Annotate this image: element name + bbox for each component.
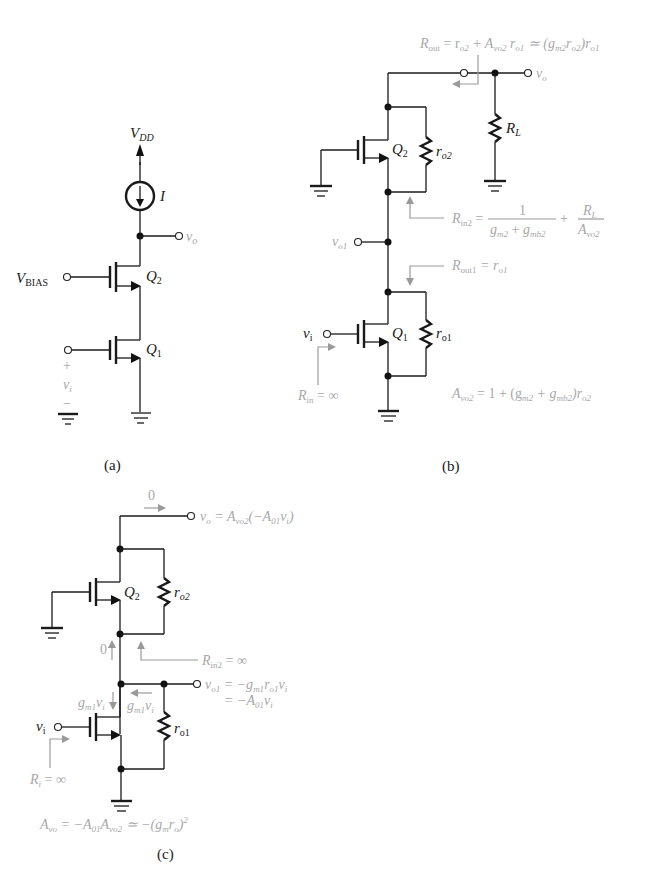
- rl-label: RL: [505, 120, 521, 138]
- vo-label: vo: [536, 66, 547, 83]
- vo-label: vo: [186, 229, 197, 246]
- zero-current-top: 0: [148, 488, 155, 503]
- q2-label: Q2: [124, 584, 140, 602]
- caption-b: (b): [442, 458, 460, 475]
- q2-label: Q2: [146, 268, 162, 286]
- frac2-denominator: Avo2: [577, 222, 600, 239]
- rin2-probe: [410, 200, 444, 218]
- caption-a: (a): [104, 457, 121, 474]
- break-terminal: [461, 70, 468, 77]
- current-arrow-icon: [158, 504, 166, 512]
- vi-terminal: [65, 347, 72, 354]
- current-arrow-icon: [136, 199, 144, 207]
- current-label: I: [159, 188, 166, 204]
- vo1-label: vo1: [332, 234, 347, 251]
- gm1vi-label-left: gm1vi: [78, 695, 105, 712]
- vbias-terminal: [64, 274, 71, 281]
- frac1-denominator: gm2 + gmb2: [490, 222, 546, 239]
- caption-c: (c): [157, 846, 174, 863]
- q1-label: Q1: [392, 325, 408, 343]
- ro2-resistor: [159, 578, 169, 606]
- vo-terminal: [176, 233, 183, 240]
- ro2-resistor: [421, 137, 431, 165]
- rout-arrow-icon: [452, 80, 460, 88]
- rin2-label: Rin2 = ∞: [201, 653, 247, 670]
- ground-icon: [41, 628, 63, 638]
- frac1-numerator: 1: [519, 203, 526, 218]
- vo-terminal: [188, 513, 195, 520]
- circuit-c: 0 vo = Avo2(−A01vi) ro2 Q2 0: [29, 488, 294, 863]
- rin2-probe: [141, 645, 198, 660]
- ro1-resistor: [421, 320, 431, 348]
- vo1-terminal: [194, 681, 201, 688]
- rin-label: Rin = ∞: [297, 388, 338, 405]
- circuit-b: Rout = ro2 + Avo2 ro1 ≃ (gm2ro2)ro1 vo R…: [297, 36, 604, 475]
- rl-resistor: [490, 114, 500, 142]
- ri-probe: [50, 739, 64, 768]
- current-arrow-icon: [108, 640, 116, 648]
- rout-equation: Rout = ro2 + Avo2 ro1 ≃ (gm2ro2)ro1: [419, 36, 600, 53]
- minus-sign: −: [63, 396, 71, 411]
- ground-icon: [111, 801, 132, 811]
- plus-sign: +: [63, 358, 71, 373]
- ro2-label: ro2: [174, 584, 190, 602]
- frac2-numerator: RL: [582, 203, 597, 220]
- ro1-label: ro1: [174, 720, 190, 738]
- ground-icon: [484, 181, 506, 191]
- avo-equation: Avo = −A01Avo2 ≃ −(gmro)2: [39, 815, 188, 834]
- rin2-arrow-icon: [137, 641, 145, 649]
- rout-probe: [456, 55, 478, 84]
- ro1-label: ro1: [436, 325, 452, 343]
- q1-label: Q1: [146, 341, 162, 359]
- gm1vi-label-right: gm1vi: [127, 698, 154, 715]
- ro2-label: ro2: [436, 143, 452, 161]
- ground-icon: [131, 413, 151, 423]
- current-arrow-icon: [130, 689, 138, 697]
- ground-icon: [378, 411, 399, 421]
- current-arrow-icon: [109, 702, 117, 710]
- vdd-label: VDD: [130, 125, 154, 143]
- zero-current-mid: 0: [100, 642, 107, 657]
- vbias-label: VBIAS: [16, 270, 48, 288]
- rout1-probe: [410, 266, 444, 282]
- rin-probe: [318, 347, 330, 385]
- vi-label: vi: [63, 377, 72, 394]
- ri-arrow-icon: [62, 735, 70, 743]
- ground-icon: [58, 414, 78, 424]
- vi-terminal: [324, 331, 331, 338]
- vo-equation: vo = Avo2(−A01vi): [200, 509, 294, 526]
- rout1-label: Rout1 = ro1: [451, 258, 507, 275]
- plus-sign: +: [560, 211, 568, 226]
- vi-label: vi: [303, 325, 313, 343]
- cascode-amplifier-figure: VDD I vo VBIAS Q2 Q1 + vi: [0, 0, 648, 876]
- ri-label: Ri = ∞: [29, 772, 66, 789]
- avo2-equation: Avo2 = 1 + (gm2 + gmb2)ro2: [451, 386, 592, 403]
- circuit-a: VDD I vo VBIAS Q2 Q1 + vi: [16, 125, 197, 474]
- vo-terminal: [525, 70, 532, 77]
- rin2-label: Rin2 =: [451, 211, 484, 228]
- rin-arrow-icon: [328, 343, 336, 351]
- vo1-equation-line1: vo1 = −gm1ro1vi: [205, 677, 288, 694]
- rin2-arrow-icon: [406, 196, 414, 204]
- rout1-arrow-icon: [406, 278, 414, 286]
- q2-label: Q2: [392, 141, 408, 159]
- vo1-terminal: [355, 239, 362, 246]
- ground-icon: [310, 186, 332, 196]
- vo1-equation-line2: = −A01vi: [224, 693, 273, 710]
- ro1-resistor: [159, 712, 169, 740]
- vi-label: vi: [36, 718, 46, 736]
- vi-terminal: [55, 724, 62, 731]
